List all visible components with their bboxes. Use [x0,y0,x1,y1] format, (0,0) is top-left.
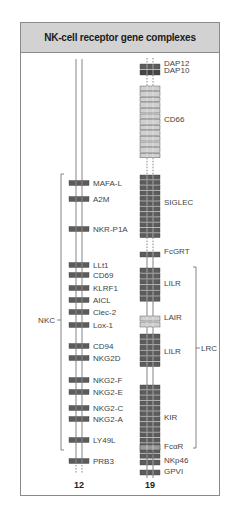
gene-box [140,92,160,97]
gene-box [140,401,160,405]
gene-group-label: LILR [164,279,181,288]
gene-box [140,274,160,279]
gene-group-label: GPVI [164,467,183,476]
gene-box [69,227,89,232]
gene-group-label: SIGLEC [164,198,194,207]
gene-box [140,396,160,400]
gene-box [140,406,160,410]
gene-box [69,263,89,268]
gene-complex-diagram: MAFA-LA2MNKR-P1ALLt1CD69KLRF1AICLClec-2L… [0,0,232,518]
gene-box [140,175,160,179]
gene-box [140,291,160,296]
gene-box [69,356,89,361]
chromosome-19-label: 19 [145,480,155,490]
gene-box [140,207,160,211]
gene-box [140,334,160,339]
gene-box [140,385,160,389]
gene-box [140,131,160,136]
gene-label: LLt1 [93,261,109,270]
gene-box [140,433,160,437]
gene-box [69,181,89,186]
gene-label: A2M [93,195,110,204]
gene-box [140,202,160,206]
gene-label: CD69 [93,271,114,280]
gene-box [69,286,89,291]
gene-box [140,223,160,227]
gene-box [140,103,160,108]
gene-box [140,362,160,367]
gene-box [69,378,89,383]
lrc-bracket [193,267,196,448]
gene-label: NKR-P1A [93,225,128,234]
gene-label: Lox-1 [93,321,114,330]
chromosome-12: MAFA-LA2MNKR-P1ALLt1CD69KLRF1AICLClec-2L… [38,59,128,474]
gene-box [140,125,160,130]
gene-box [140,142,160,147]
chromosome-12-label: 12 [74,480,84,490]
gene-box [140,114,160,119]
gene-box [140,316,160,321]
gene-box [140,186,160,190]
gene-label: MAFA-L [93,179,122,188]
gene-box [140,228,160,232]
gene-box [140,70,160,75]
gene-box [140,180,160,184]
gene-label: NKG2-E [93,388,123,397]
gene-box [140,279,160,284]
gene-group-label: CD66 [164,115,185,124]
gene-box [69,273,89,278]
gene-label: NKG2-F [93,376,122,385]
gene-label: NKG2D [93,354,121,363]
gene-label: KLRF1 [93,284,118,293]
gene-box [69,459,89,464]
gene-box [69,438,89,443]
gene-box [140,445,160,450]
gene-box [140,297,160,302]
gene-box [140,108,160,113]
gene-box [140,351,160,356]
gene-box [140,64,160,69]
gene-box [140,196,160,200]
gene-label: AICL [93,296,111,305]
gene-box [140,322,160,327]
gene-label: NKG2-C [93,404,123,413]
gene-group-label: LAIR [164,313,182,322]
gene-box [69,298,89,303]
gene-box [140,148,160,153]
gene-box [140,345,160,350]
gene-group-label: FcGRT [164,247,190,256]
gene-box [140,153,160,158]
gene-label: LY49L [93,436,116,445]
chromosome-19: DAP12DAP10CD66SIGLECFcGRTLILRLAIRLILRKIR… [140,58,217,478]
gene-box [140,470,160,475]
gene-box [140,212,160,216]
gene-group-label: FcαR [164,442,184,451]
gene-box [69,310,89,315]
gene-box [140,422,160,426]
gene-group-label: NKp46 [164,456,189,465]
nkc-bracket [61,174,64,450]
lrc-label: LRC [201,344,217,353]
gene-box [140,268,160,273]
gene-box [140,438,160,442]
gene-box [140,454,160,458]
gene-box [140,356,160,361]
gene-box [140,390,160,394]
gene-box [140,97,160,102]
gene-box [69,344,89,349]
gene-group-label: LILR [164,347,181,356]
gene-box [140,427,160,431]
gene-box [140,460,160,465]
nkc-label: NKC [38,316,55,325]
gene-box [140,217,160,221]
gene-box [140,412,160,416]
gene-box [140,340,160,345]
gene-label: Clec-2 [93,308,117,317]
gene-box [140,120,160,125]
gene-box [140,285,160,290]
gene-box [69,390,89,395]
gene-label: NKG2-A [93,415,123,424]
gene-box [69,323,89,328]
gene-label: CD94 [93,342,114,351]
gene-box [140,136,160,141]
